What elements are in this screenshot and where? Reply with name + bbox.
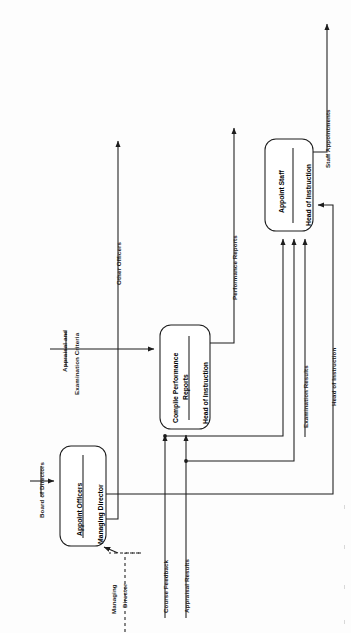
flow-other-officers [106, 141, 118, 519]
flow-label-appraisal-criteria-line2: Examination Criteria [73, 333, 80, 395]
scan-artifact [344, 620, 345, 624]
process-label-reports: Reports [182, 374, 189, 400]
flow-label-appraisal-results: Appraisal Results [183, 559, 190, 613]
flow-label-head-of-instruction: Head of Instruction [330, 348, 337, 406]
flow-label-board-of-directors: Board of Directors [38, 462, 45, 518]
diagram-lines [0, 0, 351, 633]
process-label-appoint-officers: Appoint Officers [76, 483, 83, 536]
process-actor-managing-director: Managing Director [97, 484, 104, 544]
process-label-compile-performance: Compile Performance [172, 353, 179, 423]
flow-label-other-officers: Other Officers [115, 242, 122, 285]
scan-artifact [344, 585, 345, 589]
entity-label-managing-director-line1: Managing [110, 584, 117, 614]
flow-label-examination-results: Examination Results [302, 365, 309, 428]
flow-label-course-feedback: Course Feedback [162, 560, 169, 613]
entity-label-managing-director-line2: Director [121, 583, 128, 608]
process-actor-head-of-instruction-p3: Head of Instruction [305, 164, 312, 226]
diagram-canvas: Appoint Officers Managing Director Compi… [0, 0, 351, 633]
flow-label-staff-appointments: Staff Appointments [324, 109, 331, 168]
flow-label-performance-reports: Performance Reports [231, 235, 238, 300]
process-actor-head-of-instruction-p2: Head of Instruction [202, 362, 209, 424]
scan-artifact [344, 505, 345, 509]
scan-artifact [344, 545, 345, 549]
process-label-appoint-staff: Appoint Staff [278, 170, 285, 213]
flow-label-appraisal-criteria-line1: Appraisal and [61, 330, 68, 372]
